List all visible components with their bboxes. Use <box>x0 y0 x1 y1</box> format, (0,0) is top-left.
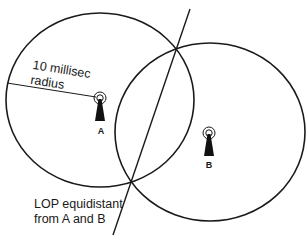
lop-label-line1: LOP equidistant <box>34 197 123 212</box>
lop-label: LOP equidistant from A and B <box>34 197 123 227</box>
range-circle-b <box>115 43 305 221</box>
station-b-label: B <box>206 161 213 170</box>
station-a-label: A <box>98 127 105 136</box>
radio-tower-icon <box>94 92 106 121</box>
lop-line <box>113 9 190 235</box>
radio-tower-icon <box>203 127 215 156</box>
lop-label-line2: from A and B <box>34 212 123 227</box>
